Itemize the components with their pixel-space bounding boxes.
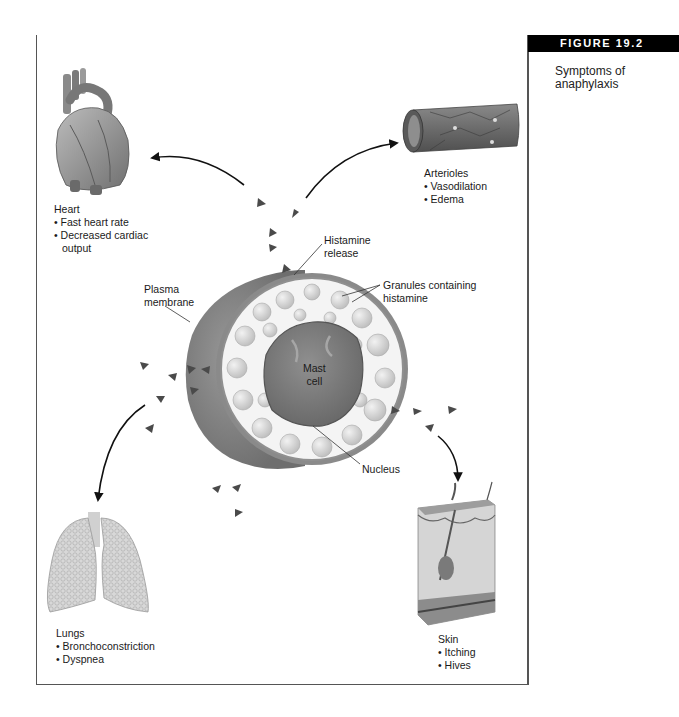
mast-cell-label: Mast cell — [303, 362, 326, 388]
label-line: Granules containing — [383, 279, 476, 292]
symptom: Vasodilation — [424, 180, 487, 193]
arrow-to-arterioles — [306, 143, 397, 198]
symptom: Edema — [424, 193, 487, 206]
nucleus-label: Nucleus — [362, 463, 400, 476]
label-line: Plasma — [144, 283, 194, 296]
anaphylaxis-diagram — [0, 0, 679, 717]
symptom-continued: output — [54, 242, 148, 255]
arrow-to-lungs — [98, 405, 145, 500]
symptom: Fast heart rate — [54, 216, 148, 229]
symptom: Hives — [438, 659, 476, 672]
label-line: Histamine — [324, 234, 371, 247]
plasma-membrane-label: Plasma membrane — [144, 283, 194, 309]
mast-cell-illustration — [186, 270, 408, 469]
organ-name: Heart — [54, 203, 148, 216]
arrow-to-heart — [152, 157, 244, 185]
symptom: Bronchoconstriction — [56, 640, 155, 653]
arterioles-label: Arterioles Vasodilation Edema — [424, 167, 487, 206]
lungs-illustration — [47, 512, 148, 612]
symptom: Decreased cardiac — [54, 229, 148, 242]
label-line: release — [324, 247, 371, 260]
organ-name: Arterioles — [424, 167, 487, 180]
arteriole-illustration — [403, 104, 519, 152]
organ-name: Lungs — [56, 627, 155, 640]
label-line: Mast — [303, 362, 326, 375]
heart-label: Heart Fast heart rate Decreased cardiac … — [54, 203, 148, 255]
histamine-release-label: Histamine release — [324, 234, 371, 260]
skin-illustration — [418, 482, 495, 625]
lungs-label: Lungs Bronchoconstriction Dyspnea — [56, 627, 155, 666]
heart-illustration — [56, 68, 129, 195]
label-line: membrane — [144, 296, 194, 309]
label-line: histamine — [383, 292, 476, 305]
granules-label: Granules containing histamine — [383, 279, 476, 305]
organ-name: Skin — [438, 633, 476, 646]
symptom: Itching — [438, 646, 476, 659]
symptom: Dyspnea — [56, 653, 155, 666]
label-line: cell — [303, 375, 326, 388]
skin-label: Skin Itching Hives — [438, 633, 476, 672]
arrow-to-skin — [438, 436, 458, 480]
